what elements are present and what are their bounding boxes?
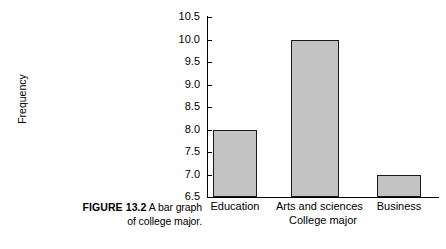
y-axis-tick-label: 7.0 bbox=[170, 169, 200, 180]
bar bbox=[377, 175, 421, 198]
y-axis-tick-label: 6.5 bbox=[170, 191, 200, 202]
x-axis-tick-label: Business bbox=[363, 200, 435, 213]
y-axis-tick-mark bbox=[208, 152, 212, 153]
y-axis-tick-label: 8.5 bbox=[170, 101, 200, 112]
x-axis-tick-label: Education bbox=[200, 200, 270, 213]
bar bbox=[213, 130, 257, 198]
y-axis-tick-mark bbox=[208, 130, 212, 131]
y-axis-tick-label: 10.0 bbox=[170, 34, 200, 45]
y-axis-tick-label: 8.0 bbox=[170, 124, 200, 135]
x-axis-title: College major bbox=[207, 214, 439, 226]
y-axis-tick-mark bbox=[208, 40, 212, 41]
y-axis-tick-label: 7.5 bbox=[170, 146, 200, 157]
x-axis-tick-label: Arts and sciences bbox=[276, 200, 355, 213]
y-axis-tick-label: 9.5 bbox=[170, 56, 200, 67]
x-axis-line bbox=[207, 197, 439, 198]
y-axis-tick-mark bbox=[208, 62, 212, 63]
figure-root: FIGURE 13.2 A bar graph of college major… bbox=[0, 0, 446, 249]
bar-chart-plot: Frequency 6.57.07.58.08.59.09.510.010.5 … bbox=[0, 0, 446, 249]
y-axis-tick-mark bbox=[208, 17, 212, 18]
y-axis-tick-mark bbox=[208, 175, 212, 176]
y-axis-tick-mark bbox=[208, 107, 212, 108]
y-axis-tick-label: 9.0 bbox=[170, 79, 200, 90]
y-axis-title: Frequency bbox=[16, 54, 28, 144]
y-axis-tick-mark bbox=[208, 85, 212, 86]
y-axis-tick-label: 10.5 bbox=[170, 11, 200, 22]
y-axis-line bbox=[207, 16, 208, 198]
bar bbox=[291, 40, 339, 198]
